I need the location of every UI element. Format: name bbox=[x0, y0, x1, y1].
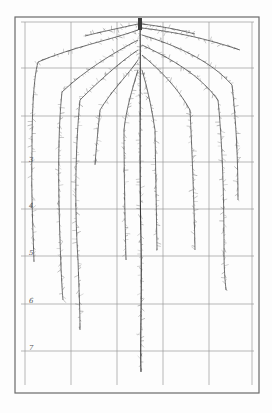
depth-label: 4 bbox=[29, 203, 33, 210]
depth-label: 7 bbox=[29, 345, 33, 352]
root-top-left-spray bbox=[85, 24, 138, 36]
root-far-right bbox=[142, 28, 240, 50]
root-left-4 bbox=[95, 60, 138, 165]
root-left-3 bbox=[76, 50, 138, 330]
depth-label: 6 bbox=[29, 298, 33, 305]
root-far-left bbox=[32, 30, 138, 262]
stem-crown bbox=[138, 18, 142, 30]
root-system-figure: 34567 bbox=[0, 0, 272, 413]
depth-label: 5 bbox=[29, 250, 33, 257]
root-left-5 bbox=[124, 70, 138, 260]
depth-label: 3 bbox=[29, 157, 33, 164]
figure-canvas bbox=[0, 0, 272, 413]
root-right-5 bbox=[142, 70, 157, 250]
measurement-grid bbox=[21, 22, 254, 385]
root-right-3 bbox=[142, 45, 226, 290]
root-right-4 bbox=[142, 55, 195, 250]
